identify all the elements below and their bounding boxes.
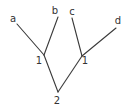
edge-b-left: [44, 17, 58, 55]
node-label-right: 1: [82, 55, 88, 66]
leaf-label-b: b: [52, 5, 58, 16]
edge-c-right: [72, 18, 82, 56]
node-label-root: 2: [54, 95, 60, 106]
edge-left-root: [44, 55, 58, 92]
leaf-label-d: d: [115, 15, 121, 26]
node-label-left: 1: [36, 55, 42, 66]
tree-labels: abcd112: [10, 5, 121, 106]
tree-diagram: abcd112: [0, 0, 129, 111]
edge-d-right: [82, 28, 116, 56]
edge-right-root: [58, 56, 82, 92]
leaf-label-a: a: [10, 13, 16, 24]
tree-edges: [17, 17, 116, 92]
leaf-label-c: c: [69, 6, 75, 17]
edge-a-left: [17, 24, 44, 55]
